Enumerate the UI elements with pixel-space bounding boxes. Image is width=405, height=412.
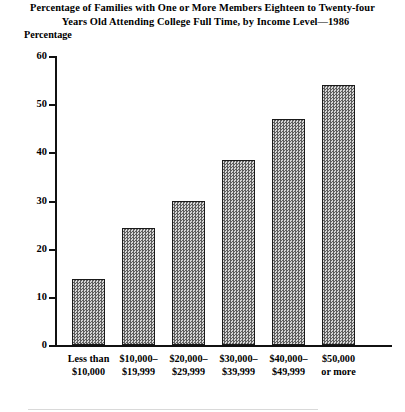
bar	[172, 201, 205, 346]
y-axis-tick-label: 50	[7, 99, 47, 109]
y-axis-tick	[49, 297, 56, 299]
y-axis-tick-label: 30	[7, 196, 47, 206]
y-axis-tick	[49, 345, 56, 347]
bar	[322, 85, 355, 345]
x-axis-category-label-line: or more	[307, 365, 371, 378]
y-axis-tick	[49, 56, 56, 58]
y-axis-tick	[49, 201, 56, 203]
y-axis-tick	[49, 249, 56, 251]
y-axis-tick-label: 40	[7, 147, 47, 157]
x-axis-category-label: $50,000or more	[307, 352, 371, 378]
bar	[122, 228, 155, 345]
bar	[272, 119, 305, 345]
y-axis-tick-label: 60	[7, 51, 47, 61]
y-axis-tick	[49, 152, 56, 154]
x-axis-line	[55, 345, 392, 347]
y-axis-tick-label: 0	[7, 340, 47, 350]
bar-chart-plot-area: 0102030405060 Less than$10,000$10,000–$1…	[0, 0, 405, 412]
bar	[222, 160, 255, 345]
footer-rule	[28, 409, 318, 410]
y-axis-tick	[49, 104, 56, 106]
x-axis-category-label-line: $50,000	[307, 352, 371, 365]
y-axis-tick-label: 10	[7, 292, 47, 302]
y-axis-tick-label: 20	[7, 244, 47, 254]
bar	[72, 279, 105, 345]
